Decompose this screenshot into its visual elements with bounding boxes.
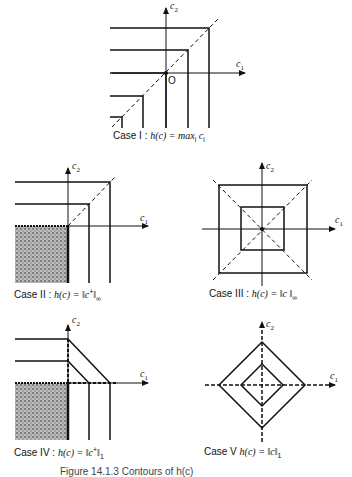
case-5-caption: Case V h(c) = ‖c‖1 <box>204 446 281 459</box>
case-4-plot <box>15 325 148 440</box>
case-3-caption: Case III : h(c) = ‖c ‖∞ <box>209 288 297 301</box>
case-3-c1-label: c1 <box>335 214 343 228</box>
case-3-plot <box>202 163 335 286</box>
case-2-c2-label: c2 <box>72 160 80 174</box>
case-1-plot <box>110 8 245 128</box>
case-3-c2-label: c2 <box>266 160 274 174</box>
case-4-c2-label: c2 <box>72 314 80 328</box>
case-2-plot <box>15 168 148 283</box>
origin-label: O <box>168 75 176 86</box>
case-5-plot <box>205 322 335 442</box>
case-2-caption: Case II : h(c) = ‖c+‖∞ <box>14 288 101 302</box>
level-sets <box>110 28 209 128</box>
case-5-c1-label: c1 <box>330 370 338 384</box>
case-1-c1-label: c1 <box>236 58 244 72</box>
case-2-c1-label: c1 <box>140 212 148 226</box>
case-4-c1-label: c1 <box>140 368 148 382</box>
case-4-caption: Case IV : h(c) = ‖c+‖1 <box>14 446 104 460</box>
shaded-region <box>15 226 68 283</box>
case-1-c2-label: c2 <box>170 0 178 14</box>
shaded-region <box>15 383 68 440</box>
case-1-caption: Case I : h(c) = maxi ci <box>113 130 205 143</box>
figure-caption: Figure 14.1.3 Contours of h(c) <box>60 466 193 477</box>
case-5-c2-label: c2 <box>266 318 274 332</box>
